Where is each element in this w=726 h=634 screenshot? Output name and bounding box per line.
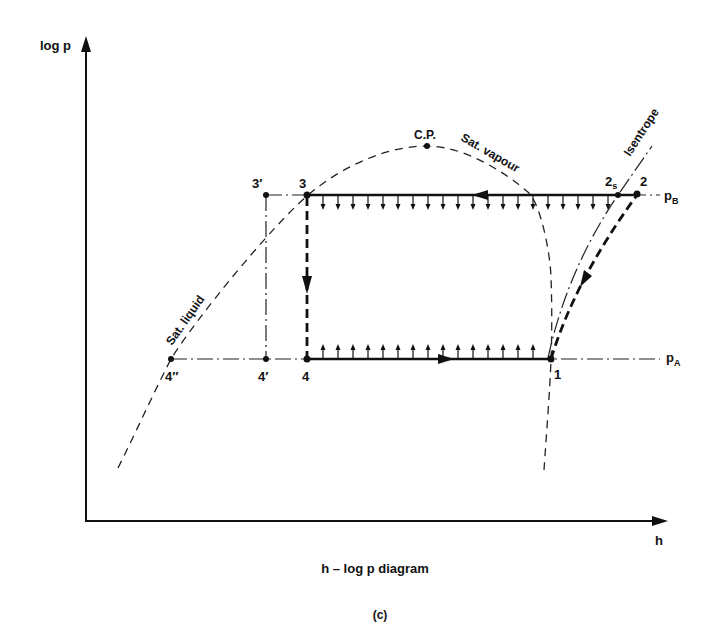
arrow-down-icon — [411, 204, 416, 210]
arrow-up-icon — [351, 344, 356, 350]
figure-caption: h – log p diagram — [321, 561, 429, 576]
arrow-down-icon — [561, 204, 566, 210]
dot-4 — [304, 356, 311, 363]
critical-point-label: C.P. — [414, 128, 436, 142]
arrow-up-icon — [486, 344, 491, 350]
sat-liquid-label: Sat. liquid — [163, 293, 207, 348]
heat-rejection-arrows — [321, 196, 611, 210]
process-1-2 — [551, 195, 637, 359]
heat-absorption-arrows — [321, 344, 536, 358]
arrow-down-icon — [531, 204, 536, 210]
axes: log p h — [40, 36, 668, 548]
panel-label: (c) — [373, 608, 388, 622]
arrow-up-icon — [381, 344, 386, 350]
arrow-up-icon — [411, 344, 416, 350]
label-4-double-prime: 4″ — [165, 369, 178, 384]
arrow-down-icon — [351, 204, 356, 210]
low-pressure-label: pA — [666, 350, 681, 368]
arrow-up-icon — [531, 344, 536, 350]
arrow-up-icon — [516, 344, 521, 350]
arrow-down-icon — [302, 276, 312, 294]
label-3: 3 — [299, 176, 306, 191]
arrow-down-icon — [456, 204, 461, 210]
dot-2 — [634, 191, 641, 198]
arrow-down-icon — [576, 204, 581, 210]
arrow-up-icon — [396, 344, 401, 350]
arrow-down-icon — [591, 204, 596, 210]
x-axis-label: h — [655, 533, 663, 548]
dot-4-double-prime — [168, 356, 174, 362]
arrow-down-icon — [396, 204, 401, 210]
dot-1 — [548, 356, 555, 363]
arrow-up-icon — [336, 344, 341, 350]
sat-vapour-label: Sat. vapour — [459, 130, 523, 175]
state-point-dots — [168, 143, 641, 363]
x-axis-arrow-icon — [652, 516, 668, 526]
h-log-p-diagram: log p h C.P. Sat. vapour Isentrope Sat. … — [0, 0, 726, 634]
isentrope-label: Isentrope — [621, 105, 662, 158]
arrow-left-icon — [472, 190, 488, 200]
label-4: 4 — [302, 369, 310, 384]
dot-critical-point — [424, 143, 430, 149]
high-pressure-label: pB — [664, 188, 679, 206]
dot-3-prime — [263, 192, 269, 198]
arrow-down-icon — [546, 204, 551, 210]
arrow-up-icon — [321, 344, 326, 350]
arrow-down-icon — [381, 204, 386, 210]
arrow-up-icon — [501, 344, 506, 350]
arrow-down-icon — [516, 204, 521, 210]
arrow-down-icon — [471, 204, 476, 210]
arrow-down-icon — [321, 204, 326, 210]
arrow-up-icon — [471, 344, 476, 350]
arrow-up-icon — [441, 344, 446, 350]
dot-3 — [304, 192, 311, 199]
arrow-down-icon — [336, 204, 341, 210]
label-2: 2 — [640, 174, 647, 189]
label-4-prime: 4′ — [258, 369, 268, 384]
label-1: 1 — [554, 367, 561, 382]
dot-4-prime — [263, 356, 269, 362]
arrow-up-icon — [366, 344, 371, 350]
arrow-up-icon — [426, 344, 431, 350]
arrow-right-icon — [438, 354, 454, 364]
label-3-prime: 3′ — [252, 176, 262, 191]
y-axis-label: log p — [40, 38, 71, 53]
arrow-down-icon — [441, 204, 446, 210]
arrow-up-icon — [456, 344, 461, 350]
arrow-down-icon — [501, 204, 506, 210]
y-axis-arrow-icon — [81, 36, 91, 52]
arrow-down-icon — [486, 204, 491, 210]
dot-2s — [615, 192, 621, 198]
arrow-down-icon — [426, 204, 431, 210]
arrow-down-icon — [366, 204, 371, 210]
arrow-down-left-icon — [580, 270, 592, 287]
label-2s: 2s — [605, 174, 617, 191]
